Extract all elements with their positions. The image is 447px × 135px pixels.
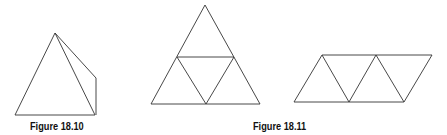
outer-triangle	[151, 5, 260, 104]
figure-18-11-triangle-net	[151, 5, 260, 104]
figure-caption-18-11: Figure 18.11	[253, 121, 306, 132]
figures-canvas	[0, 0, 447, 135]
pyramid-back-edge	[55, 33, 96, 78]
inner-inverted-triangle	[177, 57, 234, 104]
figure-caption-18-10: Figure 18.10	[30, 121, 84, 132]
figure-18-10-pyramid	[15, 33, 96, 115]
pyramid-front-face	[15, 33, 95, 115]
strip-zigzag	[322, 55, 404, 102]
figure-18-11-strip-net	[294, 55, 432, 102]
